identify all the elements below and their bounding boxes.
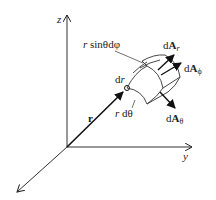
volume-element — [127, 55, 180, 104]
z-axis-label: z — [57, 14, 61, 25]
area-vector-dA-r — [158, 55, 174, 70]
dr-label: dr — [115, 74, 125, 85]
area-vector-dA-theta — [160, 92, 175, 108]
dA-theta-label: dAθ — [166, 113, 183, 126]
dA-phi-label: dAϕ — [184, 63, 202, 76]
diagram-canvas: z y r r sinθdφ dr r dθ dAr dAϕ dAθ — [0, 0, 216, 200]
leader-r-sin-theta-dphi — [115, 51, 143, 63]
r-sin-theta-dphi-label: r sinθdφ — [83, 39, 120, 50]
diagram-graphics — [0, 0, 216, 200]
x-axis — [17, 147, 67, 192]
r-dtheta-label: r dθ — [115, 108, 133, 119]
dA-r-label: dAr — [163, 40, 180, 53]
vector-r-label: r — [88, 113, 93, 124]
y-axis-label: y — [183, 151, 188, 162]
